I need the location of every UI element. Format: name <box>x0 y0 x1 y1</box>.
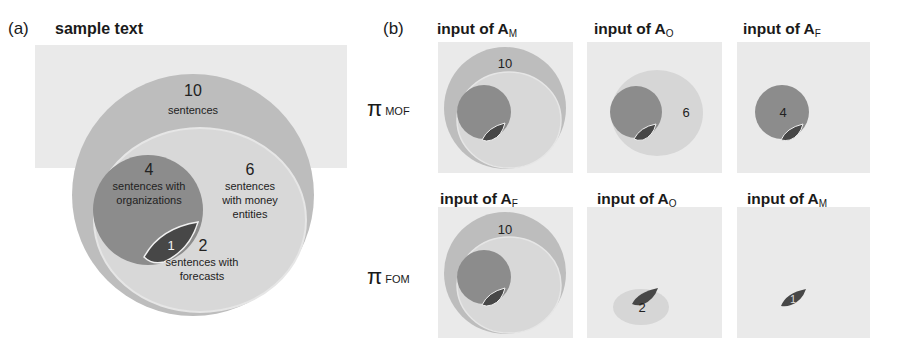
venn-grid-b: 10 6 4 10 2 1 <box>0 0 900 360</box>
venn-fom-af: 10 <box>444 212 566 334</box>
svg-text:1: 1 <box>790 293 796 305</box>
svg-text:2: 2 <box>638 300 645 315</box>
svg-text:6: 6 <box>682 105 689 120</box>
svg-text:4: 4 <box>779 105 786 120</box>
svg-text:10: 10 <box>498 56 512 71</box>
venn-mof-am: 10 <box>444 47 566 169</box>
svg-text:10: 10 <box>498 222 512 237</box>
